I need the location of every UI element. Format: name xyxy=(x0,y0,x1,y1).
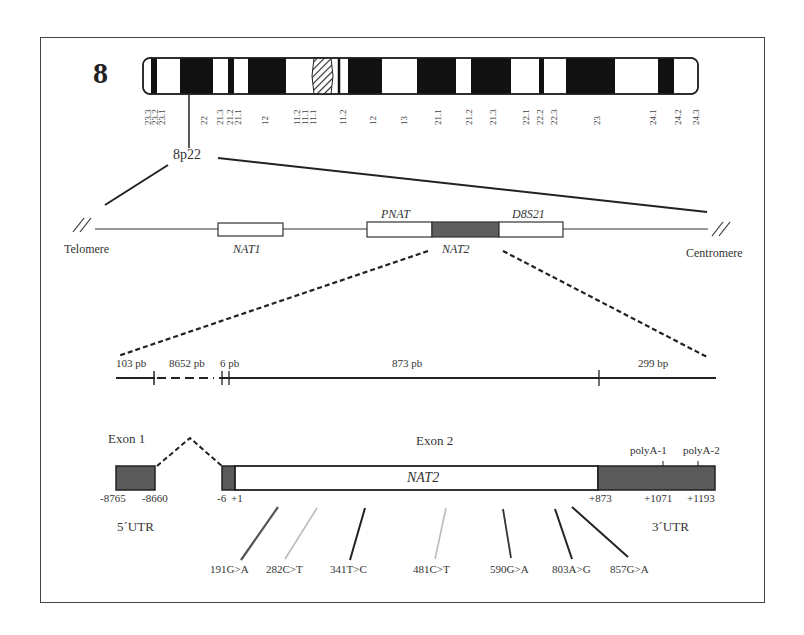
snp-line-282 xyxy=(285,508,317,559)
snp-label-191: 191G>A xyxy=(210,564,249,575)
locus-label: 8p22 xyxy=(173,148,201,162)
zoom-line-right xyxy=(218,158,707,212)
snp-label-341: 341T>C xyxy=(330,564,367,575)
gene-label-nat2: NAT2 xyxy=(442,243,470,255)
zoom-line-left xyxy=(105,165,168,205)
segment-label-8652: 8652 pb xyxy=(169,358,205,369)
band-label: 22.2 xyxy=(535,109,545,125)
band-label: 24.3 xyxy=(691,109,701,125)
zoom-dashed-left xyxy=(118,251,428,356)
snp-label-590: 590G>A xyxy=(490,564,529,575)
telomere-label: Telomere xyxy=(64,243,109,255)
pnat-box xyxy=(367,222,432,237)
centromere-label: Centromere xyxy=(686,247,743,259)
utr5-label: 5´UTR xyxy=(117,520,154,533)
nat2-gene-figure: 8 23.323.223.12221.321.221.11211.211.111… xyxy=(0,0,804,635)
scale-line xyxy=(116,370,716,386)
snp-line-803 xyxy=(555,509,572,559)
exon2-5utr xyxy=(222,466,235,490)
segment-label-103: 103 pb xyxy=(116,358,146,369)
band-label: 21.3 xyxy=(488,109,498,125)
band-label: 12 xyxy=(260,116,270,125)
chromosome-number: 8 xyxy=(93,58,108,88)
intron-splice xyxy=(157,438,222,466)
utr3-label: 3´UTR xyxy=(652,520,689,533)
pos-exon1-end: -8660 xyxy=(142,493,168,504)
nat2-gene-label: NAT2 xyxy=(407,471,439,485)
band-label: 24.2 xyxy=(673,109,683,125)
pos-cds-end: +873 xyxy=(589,493,612,504)
snp-line-341 xyxy=(350,508,365,560)
band-label: 21.3 xyxy=(215,109,225,125)
zoom-dashed-right xyxy=(503,251,707,357)
band-label: 21.1 xyxy=(233,109,243,125)
snp-lines xyxy=(241,507,628,560)
pos-cds-start: +1 xyxy=(231,493,243,504)
segment-label-299: 299 bp xyxy=(638,358,668,369)
band-label: 24.1 xyxy=(648,109,658,125)
pos-exon2-start: -6 xyxy=(217,493,226,504)
polya2-label: polyA-2 xyxy=(683,445,720,456)
band-label: 23 xyxy=(592,116,602,125)
diagram-graphics xyxy=(0,0,804,635)
chromosome-ideogram xyxy=(143,58,698,94)
gene-label-nat1: NAT1 xyxy=(233,243,261,255)
band-label: 22 xyxy=(199,116,209,125)
snp-label-803: 803A>G xyxy=(552,564,591,575)
band-label: 12 xyxy=(368,116,378,125)
band-label: 23.1 xyxy=(157,109,167,125)
gene-label-pnat: PNAT xyxy=(381,208,410,220)
segment-label-873: 873 pb xyxy=(392,358,422,369)
pos-polya2: +1193 xyxy=(687,493,715,504)
nat2-box xyxy=(432,222,499,237)
polya1-label: polyA-1 xyxy=(630,445,667,456)
d8s21-box xyxy=(499,222,563,237)
exon1-label: Exon 1 xyxy=(108,432,145,445)
gene-label-d8s21: D8S21 xyxy=(512,208,545,220)
band-label: 22.3 xyxy=(549,109,559,125)
snp-line-481 xyxy=(435,508,446,559)
exon2-label: Exon 2 xyxy=(416,434,453,447)
band-label: 21.2 xyxy=(464,109,474,125)
pos-polya1: +1071 xyxy=(644,493,672,504)
exon2-3utr xyxy=(598,466,715,490)
band-label: 11.1 xyxy=(308,110,318,125)
snp-label-481: 481C>T xyxy=(413,564,450,575)
band-label: 13 xyxy=(399,116,409,125)
segment-label-6: 6 pb xyxy=(220,358,239,369)
exon1-box xyxy=(116,466,155,490)
snp-line-191 xyxy=(241,507,278,560)
band-label: 11.2 xyxy=(338,110,348,125)
snp-label-282: 282C>T xyxy=(266,564,303,575)
band-label: 21.1 xyxy=(433,109,443,125)
pos-exon1-start: -8765 xyxy=(100,493,126,504)
snp-line-590 xyxy=(503,509,511,558)
nat1-box xyxy=(218,223,283,236)
snp-line-857 xyxy=(572,507,628,557)
snp-label-857: 857G>A xyxy=(610,564,649,575)
band-label: 22.1 xyxy=(521,109,531,125)
